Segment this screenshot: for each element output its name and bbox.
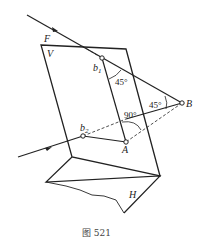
angle-label-a: 90° bbox=[124, 110, 137, 120]
label-h: H bbox=[128, 189, 137, 200]
label-b: B bbox=[186, 98, 192, 109]
segment-b1-a bbox=[102, 58, 126, 142]
plane-h-wavy-edge bbox=[46, 182, 124, 213]
label-v: V bbox=[47, 48, 55, 59]
point-b1 bbox=[100, 56, 104, 60]
angle-arc-a bbox=[122, 122, 141, 130]
label-b2: b2 bbox=[80, 122, 89, 135]
diagram-canvas: F V b1 b2 A B H 45° 45° 90° 图 521 bbox=[0, 0, 203, 246]
angle-label-b1: 45° bbox=[115, 77, 128, 87]
label-f: F bbox=[43, 33, 51, 44]
incoming-ray-bottom bbox=[18, 136, 83, 157]
figure-caption: 图 521 bbox=[82, 228, 111, 238]
ray-arrow-top bbox=[52, 27, 58, 32]
plane-v bbox=[41, 45, 160, 176]
label-b1: b1 bbox=[93, 62, 102, 75]
label-a: A bbox=[121, 144, 129, 155]
point-b bbox=[180, 101, 184, 105]
angle-label-b: 45° bbox=[149, 100, 162, 110]
segment-b2-a bbox=[83, 136, 126, 142]
